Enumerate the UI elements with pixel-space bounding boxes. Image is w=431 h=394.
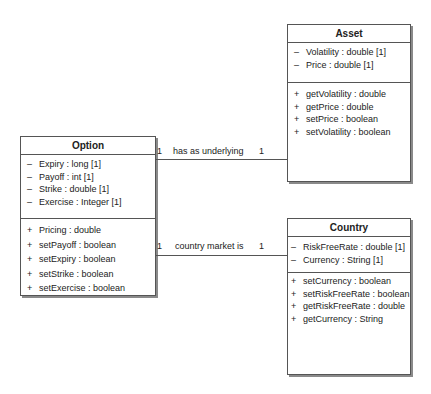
association-name: country market is xyxy=(175,241,244,251)
operation: +setPayoff : boolean xyxy=(27,238,155,253)
operation: +setExpiry : boolean xyxy=(27,252,155,267)
operations-section: +getVolatility : double +getPrice : doub… xyxy=(288,83,410,138)
attribute: –Payoff : int [1] xyxy=(27,171,155,184)
attribute: –Exercise : Integer [1] xyxy=(27,196,155,209)
association-name: has as underlying xyxy=(173,146,244,156)
association-source-multiplicity: 1 xyxy=(157,241,162,251)
attributes-section: –Expiry : long [1] –Payoff : int [1] –St… xyxy=(21,155,155,219)
attribute: –Volatility : double [1] xyxy=(294,46,410,59)
attribute: –Price : double [1] xyxy=(294,59,410,72)
attribute: –RiskFreeRate : double [1] xyxy=(291,241,410,254)
operation: +Pricing : double xyxy=(27,223,155,238)
attribute: –Strike : double [1] xyxy=(27,183,155,196)
association-target-multiplicity: 1 xyxy=(259,146,264,156)
operation: +setExercise : boolean xyxy=(27,281,155,296)
operation: +setVolatility : boolean xyxy=(294,126,410,139)
attributes-section: –RiskFreeRate : double [1] –Currency : S… xyxy=(288,237,410,273)
class-asset[interactable]: Asset –Volatility : double [1] –Price : … xyxy=(287,24,411,182)
class-name: Country xyxy=(288,219,410,237)
operation: +getCurrency : String xyxy=(291,313,410,326)
operation: +setRiskFreeRate : boolean xyxy=(291,288,410,301)
association-line-underlying[interactable] xyxy=(156,159,287,160)
class-name: Option xyxy=(21,137,155,155)
attributes-section: –Volatility : double [1] –Price : double… xyxy=(288,43,410,83)
attribute: –Currency : String [1] xyxy=(291,254,410,267)
operation: +getRiskFreeRate : double xyxy=(291,300,410,313)
association-target-multiplicity: 1 xyxy=(259,241,264,251)
operations-section: +Pricing : double +setPayoff : boolean +… xyxy=(21,219,155,296)
association-line-country[interactable] xyxy=(156,255,287,256)
association-source-multiplicity: 1 xyxy=(157,146,162,156)
class-name: Asset xyxy=(288,25,410,43)
operation: +setPrice : boolean xyxy=(294,113,410,126)
attribute: –Expiry : long [1] xyxy=(27,158,155,171)
operation: +setStrike : boolean xyxy=(27,267,155,282)
class-country[interactable]: Country –RiskFreeRate : double [1] –Curr… xyxy=(287,218,411,375)
operation: +getPrice : double xyxy=(294,101,410,114)
operations-section: +setCurrency : boolean +setRiskFreeRate … xyxy=(288,273,410,325)
operation: +getVolatility : double xyxy=(294,88,410,101)
class-option[interactable]: Option –Expiry : long [1] –Payoff : int … xyxy=(20,136,156,296)
operation: +setCurrency : boolean xyxy=(291,275,410,288)
